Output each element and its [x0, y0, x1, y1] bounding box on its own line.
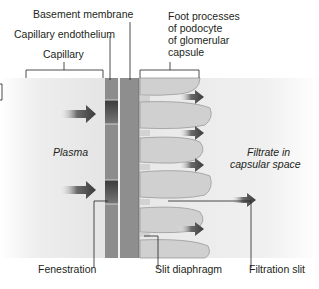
label-filtrate-2: capsular space: [230, 158, 301, 170]
label-capillary: Capillary: [43, 48, 84, 60]
fenestration-upper: [105, 100, 118, 124]
label-filtrate-1: Filtrate in: [247, 146, 290, 158]
label-basement-membrane: Basement membrane: [33, 8, 133, 20]
basement-membrane: [120, 78, 139, 258]
label-foot-processes-1: Foot processes: [168, 10, 240, 22]
label-foot-processes-4: capsule: [168, 46, 204, 58]
label-filtration-slit: Filtration slit: [249, 263, 305, 275]
label-foot-processes-2: of podocyte: [168, 22, 222, 34]
label-capillary-endothelium: Capillary endothelium: [14, 28, 115, 40]
label-slit-diaphragm: Slit diaphragm: [155, 263, 222, 275]
label-fenestration: Fenestration: [38, 263, 96, 275]
label-foot-processes-3: of glomerular: [168, 34, 229, 46]
plasma-region: [0, 78, 106, 258]
fenestration-lower: [105, 180, 118, 204]
label-plasma: Plasma: [53, 146, 88, 158]
filtration-membrane-diagram: [0, 0, 319, 289]
